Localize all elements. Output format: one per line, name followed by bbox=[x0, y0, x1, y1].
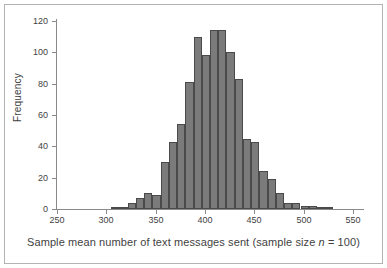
histogram-bar bbox=[259, 171, 267, 209]
x-axis-tick bbox=[156, 210, 157, 214]
histogram-bar bbox=[152, 195, 160, 209]
y-axis-tick bbox=[52, 21, 56, 22]
y-axis-tick bbox=[52, 209, 56, 210]
y-axis-tick bbox=[52, 178, 56, 179]
histogram-bar bbox=[292, 203, 300, 209]
histogram-bar bbox=[169, 142, 177, 209]
y-axis-tick bbox=[52, 115, 56, 116]
histogram-bar bbox=[136, 198, 144, 209]
y-axis-tick-label: 120 bbox=[18, 17, 48, 26]
y-axis-tick-label: 80 bbox=[18, 80, 48, 89]
histogram-bars bbox=[57, 21, 363, 209]
histogram-bar bbox=[317, 207, 325, 209]
x-axis-title-prefix: Sample mean number of text messages sent… bbox=[27, 236, 319, 248]
histogram-bar bbox=[235, 79, 243, 209]
histogram-bar bbox=[202, 55, 210, 209]
histogram-bar bbox=[210, 30, 218, 209]
histogram-bar bbox=[177, 124, 185, 209]
y-axis-tick bbox=[52, 84, 56, 85]
x-axis-tick-label: 500 bbox=[284, 216, 324, 225]
histogram-bar bbox=[161, 162, 169, 209]
x-axis-tick-label: 350 bbox=[136, 216, 176, 225]
x-axis-tick bbox=[57, 210, 58, 214]
histogram-bar bbox=[325, 207, 333, 209]
x-axis-tick bbox=[254, 210, 255, 214]
histogram-bar bbox=[119, 207, 127, 209]
histogram-bar bbox=[251, 142, 259, 209]
histogram-bar bbox=[284, 203, 292, 209]
x-axis-tick-label: 250 bbox=[37, 216, 77, 225]
histogram-figure: 020406080100120 250300350400450500550 Fr… bbox=[0, 0, 387, 268]
x-axis-tick bbox=[304, 210, 305, 214]
plot-area bbox=[57, 21, 363, 209]
x-axis-title-suffix: = 100) bbox=[325, 236, 360, 248]
x-axis-tick-label: 450 bbox=[234, 216, 274, 225]
y-axis-tick-label: 40 bbox=[18, 142, 48, 151]
x-axis-tick-label: 550 bbox=[333, 216, 373, 225]
histogram-bar bbox=[111, 207, 119, 209]
histogram-bar bbox=[226, 52, 234, 209]
y-axis-tick-label: 100 bbox=[18, 48, 48, 57]
x-axis-tick-label: 400 bbox=[185, 216, 225, 225]
x-axis-title: Sample mean number of text messages sent… bbox=[0, 236, 387, 248]
x-axis-tick bbox=[353, 210, 354, 214]
histogram-bar bbox=[144, 193, 152, 209]
y-axis-title: Frequency bbox=[12, 48, 23, 148]
y-axis-tick-label: 60 bbox=[18, 111, 48, 120]
histogram-bar bbox=[185, 82, 193, 209]
histogram-bar bbox=[309, 206, 317, 209]
x-axis-tick-label: 300 bbox=[86, 216, 126, 225]
histogram-bar bbox=[243, 139, 251, 210]
histogram-bar bbox=[268, 179, 276, 209]
y-axis-tick-label: 0 bbox=[18, 205, 48, 214]
histogram-bar bbox=[194, 37, 202, 209]
histogram-bar bbox=[218, 30, 226, 209]
x-axis-tick bbox=[205, 210, 206, 214]
y-axis-tick-label: 20 bbox=[18, 174, 48, 183]
y-axis-tick bbox=[52, 52, 56, 53]
histogram-bar bbox=[276, 193, 284, 209]
x-axis-tick bbox=[106, 210, 107, 214]
histogram-bar bbox=[128, 203, 136, 209]
y-axis-tick bbox=[52, 146, 56, 147]
histogram-bar bbox=[301, 206, 309, 209]
x-axis-line bbox=[56, 209, 364, 210]
